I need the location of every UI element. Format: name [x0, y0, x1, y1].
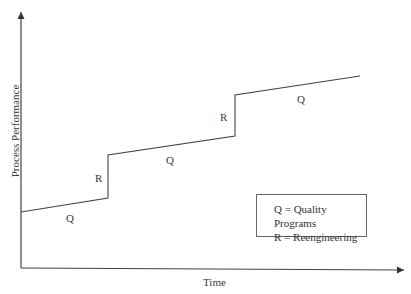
label-q2: Q [166, 155, 174, 166]
x-axis [21, 268, 404, 270]
legend-box: Q = Quality Programs R = Reengineering [256, 194, 367, 237]
performance-line [21, 76, 360, 212]
label-q1: Q [66, 213, 74, 224]
label-r2: R [220, 112, 227, 123]
label-r1: R [95, 173, 102, 184]
y-axis-label: Process Performance [9, 76, 21, 186]
legend-item-q: Q = Quality Programs [274, 202, 366, 230]
chart-canvas [0, 0, 411, 294]
label-q3: Q [297, 94, 305, 105]
x-axis-label: Time [203, 277, 226, 288]
legend-item-r: R = Reengineering [274, 230, 366, 244]
